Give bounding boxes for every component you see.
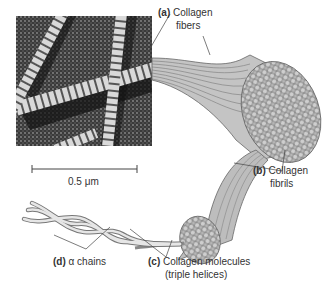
alpha-chains-illustration <box>24 203 184 248</box>
label-d-letter: (d) <box>53 256 66 267</box>
label-c-line1: Collagen molecules <box>163 256 250 267</box>
micrograph-image <box>1 0 178 172</box>
label-a-line1: Collagen <box>173 7 212 18</box>
label-b-letter: (b) <box>253 165 266 176</box>
label-d-line1: α chains <box>69 256 106 267</box>
label-b-line2: fibrils <box>270 178 293 189</box>
label-a-line2: fibers <box>176 20 200 31</box>
collagen-fiber-illustration <box>152 50 334 174</box>
label-collagen-molecules-line2: (triple helices) <box>165 269 227 281</box>
label-alpha-chains: (d) α chains <box>53 256 106 268</box>
scale-bar <box>32 165 137 173</box>
label-collagen-fibers: (a) Collagen <box>158 7 213 19</box>
collagen-diagram <box>0 0 335 294</box>
label-c-line2: (triple helices) <box>165 269 227 280</box>
label-c-letter: (c) <box>148 256 160 267</box>
label-collagen-fibrils-line2: fibrils <box>270 178 293 190</box>
scale-bar-text: 0.5 μm <box>68 176 99 187</box>
scale-bar-label: 0.5 μm <box>68 176 99 188</box>
label-collagen-fibrils: (b) Collagen <box>253 165 308 177</box>
label-collagen-fibers-line2: fibers <box>176 20 200 32</box>
label-b-line1: Collagen <box>269 165 308 176</box>
label-collagen-molecules: (c) Collagen molecules <box>148 256 250 268</box>
label-a-letter: (a) <box>158 7 170 18</box>
